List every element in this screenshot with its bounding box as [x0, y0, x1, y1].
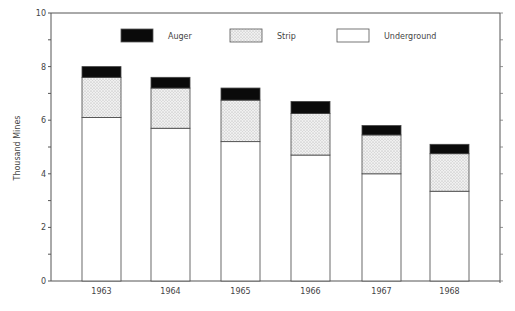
y-tick-label: 10	[36, 9, 46, 18]
x-tick-label: 1965	[230, 287, 250, 296]
bar-segment-auger	[291, 101, 330, 113]
bar-1966	[291, 101, 330, 281]
legend: AugerStripUnderground	[121, 29, 436, 42]
legend-swatch-underground	[337, 29, 369, 42]
bar-segment-underground	[82, 118, 121, 281]
bar-segment-underground	[151, 128, 190, 281]
bar-segment-underground	[430, 191, 469, 281]
y-tick-label: 8	[41, 63, 46, 72]
bar-segment-underground	[221, 142, 260, 281]
stacked-bar-chart: 0246810 196319641965196619671968 AugerSt…	[0, 0, 515, 311]
bar-segment-strip	[82, 77, 121, 117]
legend-label-strip: Strip	[277, 32, 296, 41]
bar-1968	[430, 144, 469, 281]
y-axis-label: Thousand Mines	[13, 116, 22, 182]
bar-segment-auger	[221, 88, 260, 100]
bar-1964	[151, 77, 190, 281]
legend-swatch-auger	[121, 29, 153, 42]
bar-segment-strip	[362, 135, 401, 174]
y-tick-label: 6	[41, 116, 46, 125]
bar-segment-auger	[430, 144, 469, 153]
x-tick-label: 1967	[371, 287, 391, 296]
bar-segment-strip	[221, 100, 260, 142]
x-tick-label: 1966	[300, 287, 320, 296]
y-tick-label: 4	[41, 170, 46, 179]
x-axis: 196319641965196619671968	[91, 287, 459, 296]
legend-label-auger: Auger	[168, 32, 193, 41]
x-tick-label: 1964	[160, 287, 180, 296]
legend-swatch-strip	[230, 29, 262, 42]
bar-1965	[221, 88, 260, 281]
bar-segment-auger	[82, 67, 121, 78]
x-tick-label: 1968	[439, 287, 459, 296]
bar-1963	[82, 67, 121, 281]
bar-segment-auger	[151, 77, 190, 88]
bar-segment-strip	[291, 114, 330, 156]
x-tick-label: 1963	[91, 287, 111, 296]
bar-segment-strip	[430, 154, 469, 192]
bars	[82, 67, 469, 281]
bar-1967	[362, 126, 401, 281]
bar-segment-underground	[291, 155, 330, 281]
y-tick-label: 0	[41, 277, 46, 286]
bar-segment-auger	[362, 126, 401, 135]
bar-segment-strip	[151, 88, 190, 128]
y-tick-label: 2	[41, 223, 46, 232]
bar-segment-underground	[362, 174, 401, 281]
legend-label-underground: Underground	[384, 32, 436, 41]
